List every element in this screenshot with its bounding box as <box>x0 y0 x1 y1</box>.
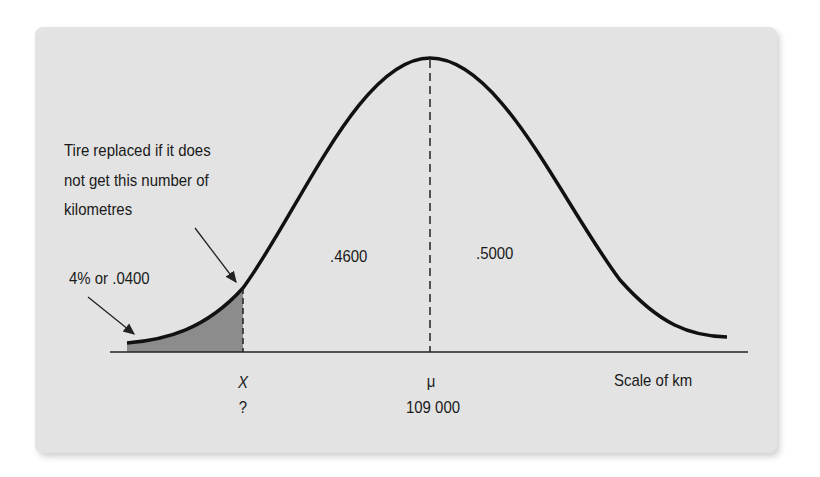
x-symbol-label: X <box>238 372 248 394</box>
annotation-line-2: not get this number of <box>64 170 209 192</box>
tail-area-label: 4% or .0400 <box>69 268 150 290</box>
mu-symbol-label: μ <box>427 371 436 393</box>
right-area-label: .5000 <box>476 243 513 265</box>
annotation-arrow <box>195 228 236 282</box>
mu-value-label: 109 000 <box>406 397 460 419</box>
annotation-line-1: Tire replaced if it does <box>64 140 211 162</box>
annotation-line-3: kilometres <box>64 199 132 221</box>
axis-label: Scale of km <box>614 370 692 392</box>
tail-arrow <box>88 297 134 334</box>
middle-area-label: .4600 <box>330 246 367 268</box>
normal-curve <box>127 58 727 343</box>
x-value-label: ? <box>239 397 247 419</box>
